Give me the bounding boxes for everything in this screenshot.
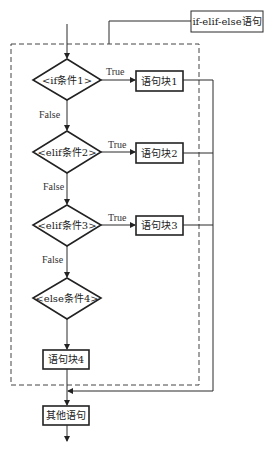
decision-2-label: <elif条件2>	[37, 146, 96, 158]
false-label-2: False	[43, 181, 65, 192]
flowchart: if-elif-else语句 <if条件1> True 语句块1 False <…	[0, 0, 270, 452]
true-label-2: True	[108, 139, 127, 150]
true-label-1: True	[106, 66, 125, 77]
false-label-3: False	[42, 254, 64, 265]
decision-3-label: <elif条件3>	[37, 219, 96, 231]
statement-type-label: if-elif-else语句	[192, 15, 261, 27]
statement-block-3-label: 语句块3	[141, 219, 177, 231]
decision-1-label: <if条件1>	[42, 74, 92, 86]
true-label-3: True	[108, 212, 127, 223]
statement-block-4-label: 语句块4	[48, 353, 84, 365]
statement-block-1-label: 语句块1	[141, 75, 177, 87]
if-elif-else-group-boundary	[11, 44, 199, 385]
label-connector	[109, 21, 191, 44]
next-statement-label: 其他语句	[46, 409, 86, 421]
decision-4-label: <else条件4>	[35, 292, 98, 304]
statement-block-2-label: 语句块2	[141, 147, 177, 159]
false-label-1: False	[39, 109, 61, 120]
